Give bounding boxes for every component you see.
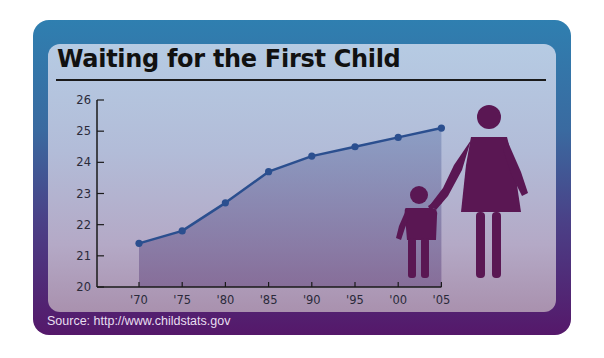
x-tick-label: '90 xyxy=(303,293,321,307)
y-tick-label: 23 xyxy=(76,187,91,201)
y-tick-label: 25 xyxy=(76,124,91,138)
source-citation: Source: http://www.childstats.gov xyxy=(47,314,230,328)
data-point xyxy=(222,199,229,206)
data-point xyxy=(135,240,142,247)
y-tick-label: 26 xyxy=(76,93,91,107)
data-point xyxy=(395,134,402,141)
mother-figure-icon xyxy=(430,105,528,278)
y-tick-label: 22 xyxy=(76,218,91,232)
data-point xyxy=(351,143,358,150)
x-tick-label: '80 xyxy=(217,293,235,307)
x-tick-label: '70 xyxy=(130,293,148,307)
x-axis-labels: '70'75'80'85'90'95'00'05 xyxy=(130,293,450,307)
data-point xyxy=(308,153,315,160)
y-tick-label: 20 xyxy=(76,280,91,294)
x-tick-label: '95 xyxy=(346,293,364,307)
data-point xyxy=(179,227,186,234)
x-tick-label: '00 xyxy=(389,293,407,307)
data-point xyxy=(265,168,272,175)
y-axis-labels: 20212223242526 xyxy=(76,93,91,294)
line-chart: '70'75'80'85'90'95'00'05 20212223242526 xyxy=(0,0,604,358)
data-point xyxy=(438,124,445,131)
x-tick-label: '85 xyxy=(260,293,278,307)
y-tick-label: 21 xyxy=(76,249,91,263)
x-tick-label: '75 xyxy=(173,293,191,307)
y-tick-label: 24 xyxy=(76,155,91,169)
area-fill xyxy=(139,128,441,287)
x-tick-label: '05 xyxy=(433,293,451,307)
